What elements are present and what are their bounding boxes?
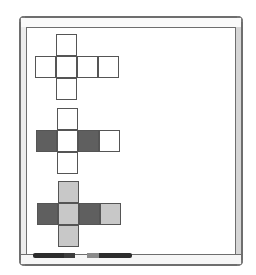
net-cell-empty: [56, 34, 77, 56]
net-cell-dark: [79, 203, 100, 225]
net-cell-empty: [35, 56, 56, 78]
net-cell-empty: [57, 152, 78, 174]
net-cell-empty: [57, 130, 78, 152]
net-cell-empty: [77, 56, 98, 78]
net-cell-light: [58, 203, 79, 225]
net-cell-empty: [57, 108, 78, 130]
marker-right-cap: [87, 253, 99, 258]
whiteboard-top-rail: [21, 18, 241, 28]
net-cell-dark: [37, 203, 58, 225]
net-cell-empty: [98, 56, 119, 78]
net-cell-dark: [36, 130, 57, 152]
whiteboard-right-rail: [235, 27, 241, 255]
net-cell-dark: [78, 130, 99, 152]
net-cell-light: [100, 203, 121, 225]
net-cell-light: [58, 225, 79, 247]
marker-left-cap: [64, 253, 75, 258]
net-cell-empty: [56, 56, 77, 78]
net-cell-empty: [99, 130, 120, 152]
net-cell-empty: [56, 78, 77, 100]
net-cell-light: [58, 181, 79, 203]
